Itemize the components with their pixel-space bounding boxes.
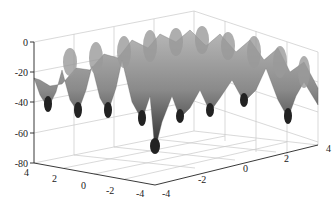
svg-text:4: 4	[326, 143, 331, 154]
svg-text:-4: -4	[162, 188, 170, 197]
svg-text:0: 0	[243, 163, 248, 174]
svg-text:0: 0	[23, 37, 28, 48]
svg-text:-4: -4	[136, 188, 144, 197]
svg-text:-40: -40	[15, 97, 28, 108]
svg-text:-20: -20	[15, 67, 28, 78]
svg-text:-2: -2	[106, 185, 114, 196]
svg-text:0: 0	[81, 180, 86, 191]
svg-text:2: 2	[284, 153, 289, 164]
svg-text:-60: -60	[15, 128, 28, 139]
svg-text:-2: -2	[198, 174, 206, 185]
z-tick-labels: 0 -20 -40 -60 -80	[15, 37, 28, 169]
svg-text:2: 2	[52, 173, 57, 184]
left-tick-labels: 4 2 0 -2 -4	[24, 167, 144, 197]
surface-plot: 0 -20 -40 -60 -80 4 2 0 -2 -4 -4 -2 0 2 …	[0, 0, 334, 197]
svg-text:4: 4	[24, 167, 29, 178]
